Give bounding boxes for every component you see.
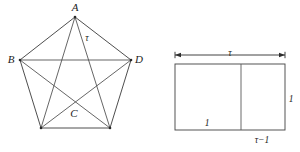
rectangle-label-residual-width: τ−1 xyxy=(255,135,270,145)
dimension-arrowhead-right xyxy=(279,53,285,58)
pentagon-diagonal-AE xyxy=(75,17,110,128)
pentagon-side-AD xyxy=(75,17,131,60)
pentagon-diagram: ADBCτ xyxy=(8,1,143,130)
rectangle-outline xyxy=(175,64,285,130)
pentagon-vertex-d xyxy=(130,59,133,62)
pentagon-vertex-label-d: D xyxy=(134,53,143,65)
pentagon-vertex-label-a: A xyxy=(71,1,79,13)
pentagon-diagonal-DF xyxy=(41,60,131,128)
pentagon-vertex-f xyxy=(40,127,43,130)
pentagon-diagonal-BE xyxy=(20,60,110,128)
dimension-arrowhead-left xyxy=(175,53,181,58)
rectangle-label-height-right: 1 xyxy=(289,94,294,104)
pentagon-side-FB xyxy=(20,60,41,128)
figure-container: ADBCτ τ11τ−1 xyxy=(0,0,300,152)
pentagon-label-c: C xyxy=(70,107,78,119)
pentagon-vertex-b xyxy=(19,59,22,62)
pentagon-label-tau: τ xyxy=(85,33,89,43)
pentagon-vertex-e xyxy=(109,127,112,130)
pentagon-side-BA xyxy=(20,17,75,60)
pentagon-vertex-label-b: B xyxy=(8,53,15,65)
rectangle-label-square-base: 1 xyxy=(205,118,210,128)
width-dimension-label: τ xyxy=(228,48,232,58)
pentagon-vertex-a xyxy=(74,16,77,19)
pentagon-side-DE xyxy=(110,60,131,128)
golden-rectangle-diagram: τ11τ−1 xyxy=(175,48,293,145)
geometry-figure: ADBCτ τ11τ−1 xyxy=(0,0,300,152)
